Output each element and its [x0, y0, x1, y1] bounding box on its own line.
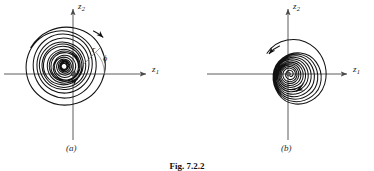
spiral-trajectory: [273, 53, 321, 104]
panel-b-axis-y-label: z2: [293, 1, 300, 11]
panel-a-angle-label: ϕ: [103, 54, 107, 63]
spiral-trajectory: [26, 27, 105, 105]
panel-a-axis-y-label: z2: [78, 1, 85, 11]
panel-b-axis-x-label: z1: [353, 64, 360, 74]
panel-a-radius-label: r: [92, 45, 95, 54]
origin-point: [287, 72, 291, 76]
panel-a-graphic: [0, 0, 187, 171]
panel-a-axis-x-label: z1: [152, 64, 159, 74]
spiral-arrowhead-outer: [94, 31, 103, 37]
figure-container: z2 z1 r ϕ (a): [0, 0, 374, 171]
panel-a-caption: (a): [66, 143, 77, 153]
spiral-arrowhead-outer: [269, 46, 279, 54]
figure-caption: Fig. 7.2.2: [0, 160, 374, 171]
origin-point: [71, 72, 75, 76]
panel-a: z2 z1 r ϕ (a): [0, 0, 187, 171]
panel-b-caption: (b): [281, 143, 292, 153]
panel-b: z2 z1 (b): [187, 0, 374, 171]
